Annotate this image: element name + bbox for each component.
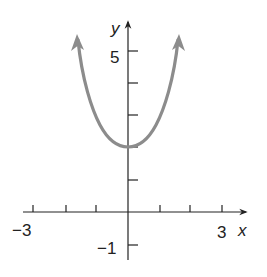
x-tick-label-min: −3 xyxy=(12,221,31,240)
x-tick-label-max: 3 xyxy=(217,223,226,242)
y-tick-label-min: −1 xyxy=(97,239,116,258)
y-tick-label-5: 5 xyxy=(110,48,119,67)
chart: y 5 −3 3 x −1 xyxy=(0,0,267,277)
y-axis-label: y xyxy=(110,19,121,38)
x-axis-label: x xyxy=(237,221,247,240)
